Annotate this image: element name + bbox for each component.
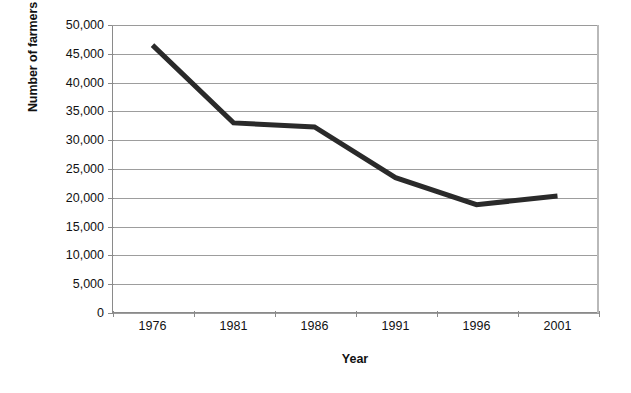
x-axis-tick-labels: 197619811986199119962001: [112, 320, 598, 340]
y-axis-tick-label: 25,000: [30, 163, 104, 176]
line-chart: Number of farmers 50,00045,00040,00035,0…: [0, 0, 631, 393]
x-axis-tick-label: 1986: [275, 320, 355, 333]
y-axis-tick-mark: [108, 198, 114, 199]
y-axis-tick-mark: [108, 83, 114, 84]
y-axis-tick-label: 35,000: [30, 105, 104, 118]
y-axis-tick-label: 15,000: [30, 220, 104, 233]
y-axis-tick-mark: [108, 255, 114, 256]
x-axis-tick-mark: [275, 311, 276, 317]
plot-frame-right-border: [597, 25, 599, 313]
x-axis-title: Year: [112, 352, 598, 366]
x-axis-tick-mark: [356, 311, 357, 317]
plot-frame-top-border: [112, 25, 598, 26]
gridline: [113, 83, 599, 84]
y-axis-tick-label: 45,000: [30, 48, 104, 61]
gridline: [113, 198, 599, 199]
x-axis-tick-label: 1981: [194, 320, 274, 333]
gridline: [113, 227, 599, 228]
gridline: [113, 284, 599, 285]
x-axis-tick-label: 1976: [113, 320, 193, 333]
y-axis-tick-mark: [108, 169, 114, 170]
gridline: [113, 54, 599, 55]
gridline: [113, 255, 599, 256]
gridline: [113, 140, 599, 141]
y-axis-tick-label: 10,000: [30, 249, 104, 262]
x-axis-tick-label: 2001: [518, 320, 598, 333]
x-axis-tick-label: 1996: [437, 320, 517, 333]
x-axis-tick-mark: [518, 311, 519, 317]
y-axis-tick-label: 40,000: [30, 76, 104, 89]
x-axis-tick-label: 1991: [356, 320, 436, 333]
y-axis-tick-mark: [108, 140, 114, 141]
y-axis-tick-label: 0: [30, 307, 104, 320]
x-axis-tick-mark: [437, 311, 438, 317]
y-axis-tick-mark: [108, 54, 114, 55]
y-axis-tick-label: 20,000: [30, 192, 104, 205]
y-axis-tick-mark: [108, 227, 114, 228]
gridline: [113, 169, 599, 170]
gridline: [113, 111, 599, 112]
x-axis-tick-mark: [113, 311, 114, 317]
y-axis-tick-mark: [108, 284, 114, 285]
y-axis-tick-label: 50,000: [30, 19, 104, 32]
y-axis-tick-label: 30,000: [30, 134, 104, 147]
x-axis-tick-mark: [194, 311, 195, 317]
x-axis-tick-mark: [599, 311, 600, 317]
y-axis-tick-mark: [108, 111, 114, 112]
y-axis-tick-labels: 50,00045,00040,00035,00030,00025,00020,0…: [30, 25, 104, 313]
y-axis-tick-label: 5,000: [30, 278, 104, 291]
plot-area: [112, 25, 598, 313]
